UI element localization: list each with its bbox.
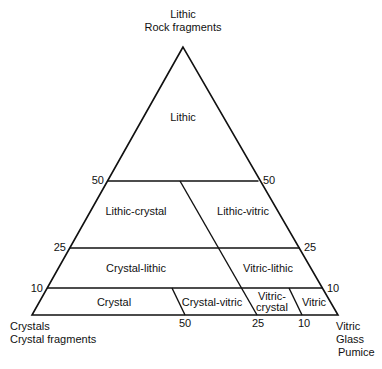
field-crystal-lithic: Crystal-lithic [106, 262, 166, 274]
field-lithic-crystal: Lithic-crystal [105, 205, 166, 217]
field-vitric-crystal-line2: crystal [256, 301, 288, 313]
ternary-diagram: Lithic Rock fragments Crystals Crystal f… [0, 0, 382, 369]
tick-right-50: 50 [263, 174, 275, 186]
vertex-bottom-right-label-2: Glass [336, 333, 365, 345]
tick-right-10: 10 [327, 282, 339, 294]
tick-right-25: 25 [304, 241, 316, 253]
field-lithic: Lithic [170, 111, 196, 123]
tick-base-50: 50 [179, 317, 191, 329]
tick-left-10: 10 [31, 282, 43, 294]
tick-base-25: 25 [252, 317, 264, 329]
vertex-top-label-2: Rock fragments [144, 21, 222, 33]
vertex-top-label-1: Lithic [170, 8, 196, 20]
vertex-bottom-right-label-1: Vitric [336, 320, 361, 332]
field-crystal: Crystal [97, 296, 131, 308]
divider-vitriccrystal-vitric [289, 288, 302, 315]
vertex-bottom-right-label-3: Pumice [338, 346, 375, 358]
field-crystal-vitric: Crystal-vitric [182, 296, 243, 308]
tick-left-50: 50 [92, 174, 104, 186]
tick-base-10: 10 [298, 317, 310, 329]
field-lithic-vitric: Lithic-vitric [217, 205, 269, 217]
vertex-bottom-left-label-1: Crystals [10, 320, 50, 332]
tick-left-25: 25 [54, 241, 66, 253]
vertex-bottom-left-label-2: Crystal fragments [10, 333, 97, 345]
field-vitric: Vitric [302, 296, 327, 308]
field-vitric-lithic: Vitric-lithic [243, 262, 293, 274]
